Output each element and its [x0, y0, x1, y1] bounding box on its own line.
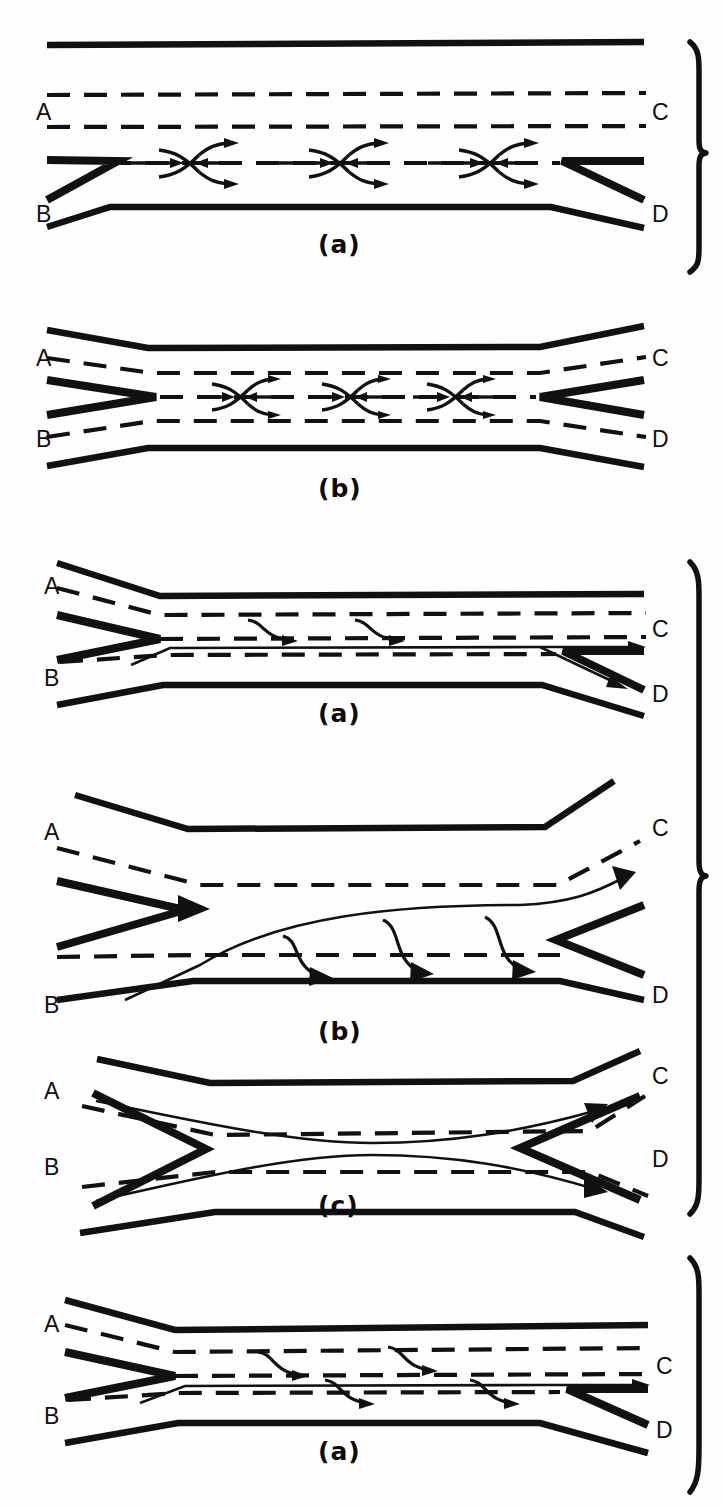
panel-2a-label-D: D	[652, 681, 669, 707]
panel-2c-label-C: C	[652, 1063, 669, 1089]
panel-2b-caption: (b)	[318, 1017, 362, 1046]
panel-2a-label-C: C	[652, 616, 669, 642]
panel-1b-label-A: A	[36, 345, 52, 371]
panel-1a-right-nose	[562, 161, 644, 200]
panel-3a-top-edge	[65, 1300, 648, 1330]
panel-1b-label-C: C	[652, 345, 669, 371]
panel-1a-label-D: D	[652, 201, 669, 227]
panel-1b-label-B: B	[36, 426, 51, 452]
panel-2c-bottom-edge	[80, 1212, 644, 1237]
panel-3a-label-C: C	[656, 1353, 673, 1379]
panel-3a-lane-line-3	[68, 1392, 560, 1400]
panel-3a-right-nose	[567, 1389, 648, 1425]
panel-1a-caption: (a)	[318, 230, 361, 259]
panel-2b-label-D: D	[652, 982, 669, 1008]
panel-2c-label-A: A	[44, 1078, 60, 1104]
panel-1b: A B C D (b)	[36, 326, 669, 503]
panel-2c-top-edge	[97, 1051, 640, 1083]
panel-1b-bottom-edge	[47, 448, 644, 467]
panel-3a-lane-line-2	[175, 1374, 650, 1376]
panel-3a-label-A: A	[44, 1311, 60, 1337]
panel-2a-weave-arrow-1	[248, 620, 298, 646]
panel-1a-label-C: C	[652, 99, 669, 125]
panel-1b-weave-symbol-3	[413, 375, 496, 419]
panel-2a-label-A: A	[44, 573, 60, 599]
panel-1b-caption: (b)	[318, 474, 362, 503]
panel-2c-caption: (c)	[318, 1191, 359, 1220]
panel-2b-weave-arrow-2	[383, 920, 434, 982]
panel-2a: A B C D (a)	[44, 563, 669, 728]
panel-1b-left-nose	[47, 380, 156, 415]
panel-1b-weave-symbol-2	[308, 375, 391, 419]
panel-3a-label-D: D	[656, 1417, 673, 1443]
panel-2b-merge-arrowhead	[178, 895, 210, 922]
panel-2b-label-B: B	[44, 992, 59, 1018]
panel-2a-lane-line-3	[60, 654, 556, 662]
weaving-diagram-figure: A B C D (a)	[0, 0, 724, 1507]
brace-group-3	[690, 1258, 699, 1492]
panel-1b-lane-line-2	[47, 421, 646, 437]
panel-1a-top-edge	[47, 42, 644, 45]
panel-1b-weave-symbol-1	[198, 375, 281, 419]
panel-2a-left-nose	[57, 615, 160, 660]
panel-2a-weave-arrow-2	[355, 620, 405, 646]
panel-2c-flow-b-to-c	[96, 1101, 598, 1143]
panel-1b-lane-line-1	[47, 357, 646, 373]
brace-group-1	[690, 42, 706, 272]
panel-2b-weave-arrow-3	[485, 917, 536, 980]
panel-2b-through-arrowhead	[612, 866, 636, 890]
panel-1a-lane-line-1	[47, 93, 646, 95]
panel-2a-lane-line-2	[160, 637, 646, 639]
figure-sheet: A B C D (a)	[0, 0, 724, 1507]
panel-3a: A B C D (a)	[44, 1300, 673, 1466]
panel-1b-label-D: D	[652, 426, 669, 452]
panel-1a-left-nose	[47, 160, 118, 200]
panel-1a-label-A: A	[36, 99, 52, 125]
panel-3a-caption: (a)	[318, 1437, 361, 1466]
panel-1a: A B C D (a)	[36, 42, 669, 259]
panel-2b-lane-line-1	[57, 841, 640, 885]
panel-2a-top-edge	[57, 563, 644, 596]
panel-2b-lane-line-2	[57, 955, 560, 957]
panel-2c-label-B: B	[44, 1154, 59, 1180]
panel-2b-label-A: A	[44, 819, 60, 845]
panel-2b: A B C D (b)	[44, 781, 669, 1046]
panel-1a-bottom-edge	[47, 207, 644, 228]
panel-3a-left-nose	[65, 1352, 175, 1398]
panel-1a-lane-line-2	[47, 126, 646, 127]
panel-3a-through-flow	[140, 1385, 640, 1403]
panel-2b-top-edge	[75, 781, 614, 829]
panel-2c: A B C D (c)	[44, 1051, 669, 1237]
panel-1b-top-edge	[47, 326, 644, 348]
panel-2a-label-B: B	[44, 665, 59, 691]
panel-2a-caption: (a)	[318, 699, 361, 728]
brace-group-2	[690, 562, 706, 1214]
panel-2a-right-nose	[563, 651, 644, 690]
panel-2b-label-C: C	[652, 815, 669, 841]
panel-1a-label-B: B	[36, 201, 51, 227]
panel-2b-left-nose	[57, 881, 185, 947]
panel-1b-right-nose	[540, 380, 644, 415]
panel-2c-label-D: D	[652, 1146, 669, 1172]
panel-2b-right-nose	[556, 905, 644, 975]
panel-3a-label-B: B	[44, 1403, 59, 1429]
